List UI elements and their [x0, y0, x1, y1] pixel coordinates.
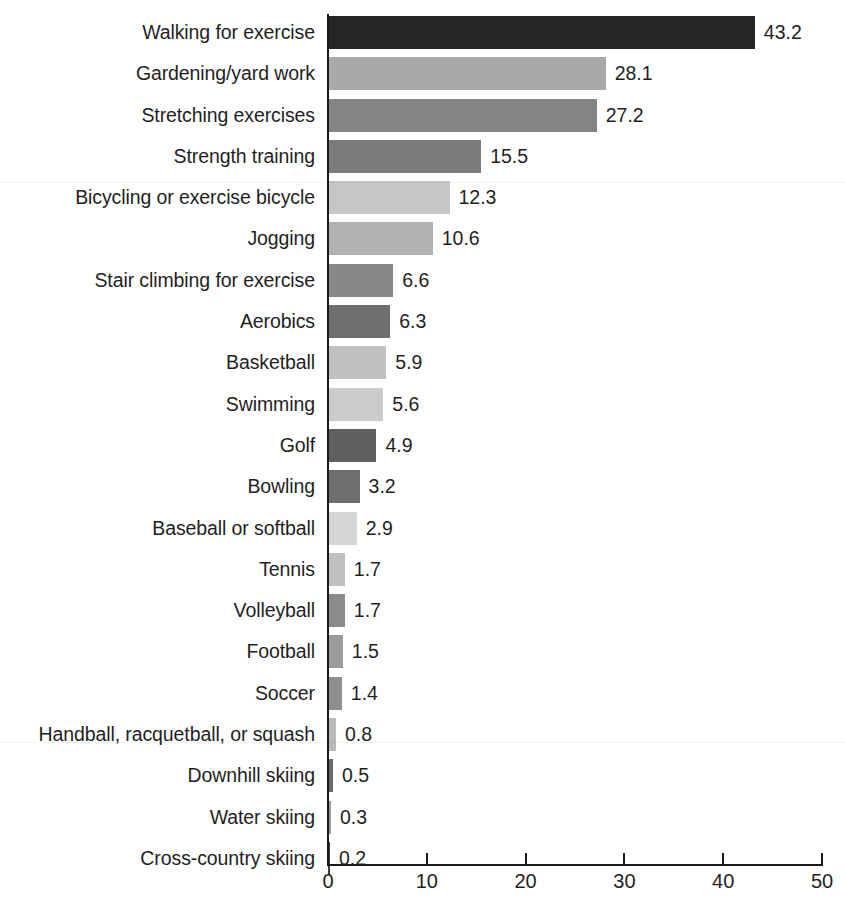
bar-area: 0.5 [328, 755, 845, 796]
chart-row: Tennis1.7 [0, 549, 845, 590]
bar-area: 1.7 [328, 549, 845, 590]
chart-row: Bicycling or exercise bicycle12.3 [0, 177, 845, 218]
axis-tick [623, 853, 625, 865]
chart-row: Downhill skiing0.5 [0, 755, 845, 796]
chart-row: Jogging10.6 [0, 218, 845, 259]
bar-value-label: 28.1 [615, 53, 653, 94]
bar[interactable] [328, 264, 393, 297]
bar[interactable] [328, 677, 342, 710]
bar-area: 12.3 [328, 177, 845, 218]
bar[interactable] [328, 759, 333, 792]
bar-area: 4.9 [328, 425, 845, 466]
category-label: Jogging [0, 218, 320, 259]
axis-tick-label: 0 [298, 868, 358, 894]
category-label: Strength training [0, 136, 320, 177]
bar[interactable] [328, 470, 360, 503]
axis-tick [525, 853, 527, 865]
category-label: Downhill skiing [0, 755, 320, 796]
bar-area: 6.6 [328, 260, 845, 301]
chart-row: Walking for exercise43.2 [0, 12, 845, 53]
bar-value-label: 1.4 [351, 673, 378, 714]
bar-area: 0.8 [328, 714, 845, 755]
bar-value-label: 27.2 [606, 95, 644, 136]
chart-row: Golf4.9 [0, 425, 845, 466]
bar[interactable] [328, 222, 433, 255]
bar-area: 3.2 [328, 466, 845, 507]
bar[interactable] [328, 140, 481, 173]
category-label: Stretching exercises [0, 95, 320, 136]
axis-tick-label: 50 [792, 868, 845, 894]
axis-tick [426, 853, 428, 865]
bar-area: 28.1 [328, 53, 845, 94]
bar-area: 43.2 [328, 12, 845, 53]
bar-value-label: 43.2 [764, 12, 802, 53]
bar[interactable] [328, 635, 343, 668]
bar-value-label: 12.3 [459, 177, 497, 218]
chart-row: Baseball or softball2.9 [0, 508, 845, 549]
bar[interactable] [328, 16, 755, 49]
bar[interactable] [328, 346, 386, 379]
bar-area: 5.9 [328, 342, 845, 383]
bar-area: 27.2 [328, 95, 845, 136]
bar[interactable] [328, 305, 390, 338]
chart-row: Basketball5.9 [0, 342, 845, 383]
bar-value-label: 5.9 [395, 342, 422, 383]
chart-row: Aerobics6.3 [0, 301, 845, 342]
axis-tick-label: 20 [496, 868, 556, 894]
category-label: Aerobics [0, 301, 320, 342]
bar-area: 0.3 [328, 797, 845, 838]
category-label: Walking for exercise [0, 12, 320, 53]
value-axis-vertical-line [327, 14, 329, 865]
bar[interactable] [328, 594, 345, 627]
bar[interactable] [328, 429, 376, 462]
bar[interactable] [328, 553, 345, 586]
bar-value-label: 4.9 [385, 425, 412, 466]
chart-row: Volleyball1.7 [0, 590, 845, 631]
bar-chart: Walking for exercise43.2Gardening/yard w… [0, 0, 845, 914]
bar[interactable] [328, 99, 597, 132]
chart-row: Soccer1.4 [0, 673, 845, 714]
category-label: Cross-country skiing [0, 838, 320, 879]
bar-area: 1.4 [328, 673, 845, 714]
bar-area: 1.5 [328, 631, 845, 672]
bar[interactable] [328, 512, 357, 545]
bar[interactable] [328, 57, 606, 90]
chart-row: Football1.5 [0, 631, 845, 672]
chart-row: Stretching exercises27.2 [0, 95, 845, 136]
bar-value-label: 3.2 [369, 466, 396, 507]
axis-tick [722, 853, 724, 865]
category-label: Volleyball [0, 590, 320, 631]
category-label: Bicycling or exercise bicycle [0, 177, 320, 218]
bar[interactable] [328, 181, 450, 214]
chart-row: Swimming5.6 [0, 384, 845, 425]
chart-row: Water skiing0.3 [0, 797, 845, 838]
bar-value-label: 1.5 [352, 631, 379, 672]
category-label: Baseball or softball [0, 508, 320, 549]
bar[interactable] [328, 718, 336, 751]
axis-tick-label: 40 [693, 868, 753, 894]
bar-value-label: 10.6 [442, 218, 480, 259]
axis-tick [327, 853, 329, 865]
bar-area: 1.7 [328, 590, 845, 631]
category-label: Swimming [0, 384, 320, 425]
chart-row: Strength training15.5 [0, 136, 845, 177]
chart-rows: Walking for exercise43.2Gardening/yard w… [0, 12, 845, 879]
category-label: Handball, racquetball, or squash [0, 714, 320, 755]
axis-tick-label: 10 [397, 868, 457, 894]
category-label: Gardening/yard work [0, 53, 320, 94]
value-axis-baseline [327, 864, 823, 866]
category-label: Bowling [0, 466, 320, 507]
bar-value-label: 0.8 [345, 714, 372, 755]
bar-value-label: 1.7 [354, 590, 381, 631]
category-label: Football [0, 631, 320, 672]
bar-area: 2.9 [328, 508, 845, 549]
category-label: Tennis [0, 549, 320, 590]
category-label: Soccer [0, 673, 320, 714]
bar-area: 5.6 [328, 384, 845, 425]
chart-row: Handball, racquetball, or squash0.8 [0, 714, 845, 755]
bar[interactable] [328, 388, 383, 421]
bar-value-label: 15.5 [490, 136, 528, 177]
category-label: Water skiing [0, 797, 320, 838]
bar-area: 6.3 [328, 301, 845, 342]
category-label: Basketball [0, 342, 320, 383]
